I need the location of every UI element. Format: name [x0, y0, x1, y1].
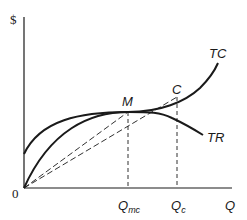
x-axis-label: Q: [225, 198, 235, 213]
ray-to-m: [24, 112, 128, 188]
tc-label: TC: [209, 46, 227, 61]
q-mc-label: Qmc: [118, 198, 141, 215]
point-m-label: M: [122, 94, 133, 109]
q-c-label: Qc: [171, 198, 186, 215]
y-axis-label: $: [10, 12, 17, 27]
cost-revenue-diagram: $ 0 Q TC TR M C Qmc Qc: [0, 0, 247, 220]
ray-to-c: [24, 97, 177, 188]
total-revenue-curve: [24, 112, 203, 188]
tr-label: TR: [207, 130, 224, 145]
origin-label: 0: [12, 186, 19, 201]
total-cost-curve: [24, 63, 218, 154]
point-c-label: C: [172, 82, 182, 97]
